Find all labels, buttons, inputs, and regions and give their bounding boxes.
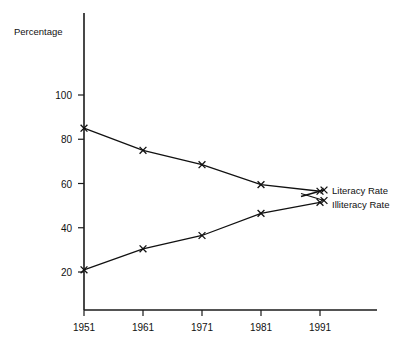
legend-label-literacy-rate: Literacy Rate [332,185,388,196]
legend-connectors [301,190,324,201]
x-tick-label-1971: 1971 [191,322,214,333]
data-series-layer [81,125,328,273]
y-axis-ticks [78,95,84,272]
line-chart-figure: Percentage 100 80 60 40 20 1951 1961 197… [0,0,406,350]
x-tick-label-1991: 1991 [309,322,332,333]
x-axis-ticks [84,310,320,316]
y-tick-label-20: 20 [61,267,73,278]
x-tick-label-1961: 1961 [132,322,155,333]
legend-label-illiteracy-rate: Illiteracy Rate [332,199,390,210]
x-tick-label-1951: 1951 [73,322,96,333]
series-line-literacy-rate [84,128,320,191]
y-tick-label-80: 80 [61,134,73,145]
y-tick-label-60: 60 [61,179,73,190]
y-axis-title: Percentage [14,26,63,37]
y-tick-label-100: 100 [55,90,72,101]
y-tick-label-40: 40 [61,223,73,234]
chart-canvas: Percentage 100 80 60 40 20 1951 1961 197… [0,0,406,350]
x-tick-label-1981: 1981 [250,322,273,333]
legend-connector-illiteracy [301,194,324,201]
